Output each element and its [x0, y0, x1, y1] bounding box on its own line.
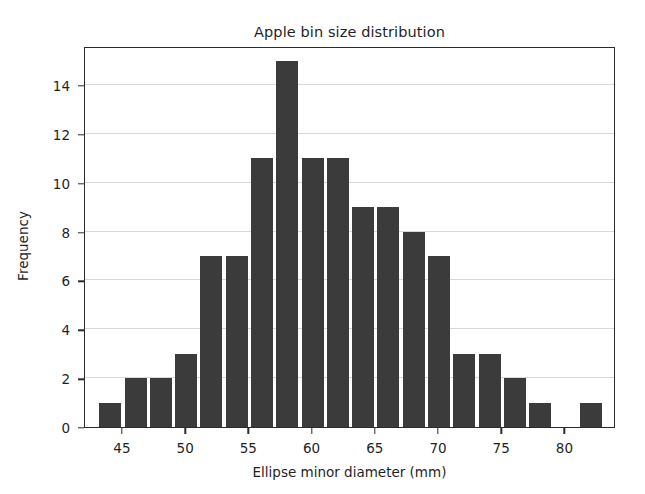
plot-area [84, 47, 615, 428]
x-tick-mark [437, 428, 438, 434]
x-tick-label: 45 [113, 440, 130, 456]
gridline [85, 231, 614, 232]
histogram-bar [125, 378, 147, 427]
y-axis: 02468101214 [0, 0, 84, 494]
y-axis-label: Frequency [15, 211, 31, 281]
x-tick-mark [564, 428, 565, 434]
y-tick-mark [78, 85, 84, 86]
histogram-bar [352, 207, 374, 427]
histogram-bar [529, 403, 551, 427]
histogram-bar [377, 207, 399, 427]
histogram-bar [479, 354, 501, 427]
gridline [85, 133, 614, 134]
y-tick-label: 4 [61, 322, 70, 338]
y-tick-label: 12 [53, 127, 70, 143]
histogram-bar [302, 158, 324, 427]
histogram-bar [504, 378, 526, 427]
x-tick-mark [311, 428, 312, 434]
gridline [85, 328, 614, 329]
histogram-bar [226, 256, 248, 427]
gridline [85, 279, 614, 280]
x-tick-mark [121, 428, 122, 434]
x-tick-mark [501, 428, 502, 434]
y-tick-mark [78, 183, 84, 184]
histogram-bar [403, 232, 425, 427]
y-tick-mark [78, 378, 84, 379]
gridline [85, 182, 614, 183]
histogram-bar [276, 61, 298, 427]
chart-title: Apple bin size distribution [84, 24, 615, 40]
y-tick-mark [78, 134, 84, 135]
histogram-bar [428, 256, 450, 427]
y-tick-label: 6 [61, 273, 70, 289]
x-tick-label: 60 [303, 440, 320, 456]
histogram-bar [200, 256, 222, 427]
histogram-bar [251, 158, 273, 427]
x-tick-label: 75 [493, 440, 510, 456]
x-tick-label: 55 [240, 440, 257, 456]
histogram-bar [150, 378, 172, 427]
x-axis: Ellipse minor diameter (mm) 455055606570… [0, 428, 645, 494]
histogram-bar [175, 354, 197, 427]
histogram-bar [453, 354, 475, 427]
gridline [85, 84, 614, 85]
x-tick-label: 70 [429, 440, 446, 456]
x-tick-mark [248, 428, 249, 434]
y-tick-label: 8 [61, 225, 70, 241]
y-tick-mark [78, 232, 84, 233]
x-tick-label: 65 [366, 440, 383, 456]
histogram-bar [580, 403, 602, 427]
x-tick-label: 80 [556, 440, 573, 456]
x-tick-mark [184, 428, 185, 434]
y-tick-label: 10 [53, 176, 70, 192]
y-tick-label: 14 [53, 78, 70, 94]
y-tick-mark [78, 281, 84, 282]
x-tick-mark [374, 428, 375, 434]
histogram-figure: Apple bin size distribution 02468101214 … [0, 0, 645, 494]
x-axis-label: Ellipse minor diameter (mm) [84, 464, 615, 480]
histogram-bar [327, 158, 349, 427]
y-tick-mark [78, 330, 84, 331]
x-tick-label: 50 [177, 440, 194, 456]
histogram-bar [99, 403, 121, 427]
y-tick-label: 2 [61, 371, 70, 387]
